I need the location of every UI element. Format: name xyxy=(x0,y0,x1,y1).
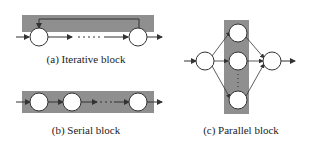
parallel-node-2 xyxy=(229,52,247,70)
iterative-block-caption: (a) Iterative block xyxy=(47,53,126,66)
first-node xyxy=(30,28,48,46)
parallel-node-last xyxy=(229,91,247,109)
last-node xyxy=(129,28,147,46)
serial-block-diagram: (b) Serial block xyxy=(16,91,162,137)
serial-block-caption: (b) Serial block xyxy=(52,124,121,137)
serial-node-last xyxy=(129,93,147,111)
serial-node-1 xyxy=(30,93,48,111)
serial-node-2 xyxy=(63,93,81,111)
iterative-block-diagram: (a) Iterative block xyxy=(16,15,162,66)
block-diagram-figure: (a) Iterative block (b) Serial block (c)… xyxy=(0,0,310,143)
parallel-block-caption: (c) Parallel block xyxy=(203,124,279,137)
join-node xyxy=(263,52,281,70)
parallel-block-diagram: (c) Parallel block xyxy=(184,20,295,137)
split-node xyxy=(196,52,214,70)
parallel-node-1 xyxy=(229,24,247,42)
